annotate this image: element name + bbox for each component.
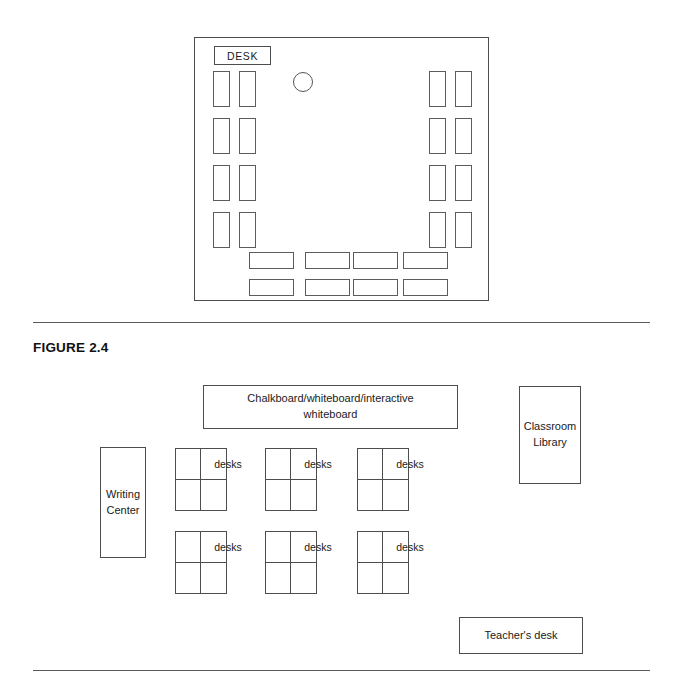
desk-seat: desks: [358, 449, 383, 480]
desk-seat: [201, 532, 226, 563]
classroom-library-label-line2: Library: [533, 436, 567, 448]
desk-seat: [383, 563, 408, 594]
desk-group: desks: [175, 448, 227, 511]
desk-seat: [201, 449, 226, 480]
desk-seat: desks: [176, 449, 201, 480]
desk-seat: desks: [266, 449, 291, 480]
desk-group: desks: [357, 531, 409, 594]
writing-center-box: Writing Center: [100, 447, 146, 558]
desk-seat: [291, 563, 316, 594]
desk-seat: [358, 480, 383, 511]
desk-seat: desks: [266, 532, 291, 563]
figure-page: DESK FIGURE 2.4: [0, 0, 675, 694]
teachers-desk-box: Teacher's desk: [459, 617, 583, 654]
desk-seat: [201, 563, 226, 594]
desk-group-label: desks: [266, 458, 370, 470]
writing-center-label: Writing Center: [106, 487, 140, 519]
desk-seat: [266, 480, 291, 511]
desk-seat: [291, 532, 316, 563]
desk-group: desks: [265, 448, 317, 511]
teachers-desk-label: Teacher's desk: [484, 628, 557, 644]
desk-seat: [201, 480, 226, 511]
desk-group: desks: [175, 531, 227, 594]
divider-bottom: [33, 670, 650, 671]
chalkboard-whiteboard-box: Chalkboard/whiteboard/interactive whiteb…: [203, 385, 458, 429]
classroom-library-box: Classroom Library: [519, 386, 581, 484]
chalkboard-label: Chalkboard/whiteboard/interactive whiteb…: [247, 391, 413, 423]
classroom-library-label: Classroom Library: [524, 419, 577, 451]
chalkboard-label-line2: whiteboard: [304, 408, 358, 420]
classroom-layout-plan: Chalkboard/whiteboard/interactive whiteb…: [0, 0, 675, 694]
writing-center-label-line1: Writing: [106, 488, 140, 500]
desk-seat: [383, 449, 408, 480]
desk-group-label: desks: [358, 541, 462, 553]
desk-seat: [291, 449, 316, 480]
desk-seat: [383, 532, 408, 563]
chalkboard-label-line1: Chalkboard/whiteboard/interactive: [247, 392, 413, 404]
classroom-library-label-line1: Classroom: [524, 420, 577, 432]
desk-seat: [383, 480, 408, 511]
desk-group: desks: [265, 531, 317, 594]
desk-seat: [358, 563, 383, 594]
desk-group: desks: [357, 448, 409, 511]
writing-center-label-line2: Center: [106, 504, 139, 516]
desk-seat: [176, 563, 201, 594]
desk-seat: [266, 563, 291, 594]
desk-seat: desks: [176, 532, 201, 563]
desk-seat: [291, 480, 316, 511]
desk-seat: desks: [358, 532, 383, 563]
desk-group-label: desks: [358, 458, 462, 470]
desk-seat: [176, 480, 201, 511]
desk-group-label: desks: [266, 541, 370, 553]
